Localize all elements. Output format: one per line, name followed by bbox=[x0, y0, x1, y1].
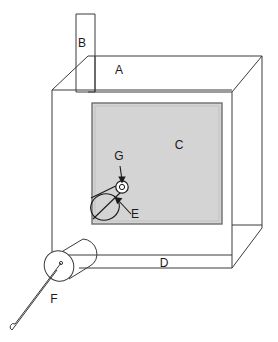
chimney-stack bbox=[76, 14, 95, 92]
label-e: E bbox=[131, 207, 139, 221]
diagram-svg: A B C D E F G bbox=[0, 0, 278, 342]
label-d: D bbox=[160, 256, 169, 270]
label-g: G bbox=[114, 149, 123, 163]
label-f: F bbox=[50, 292, 57, 306]
probe-cylinder bbox=[38, 239, 96, 287]
label-c: C bbox=[175, 138, 184, 152]
label-b: B bbox=[78, 36, 86, 50]
label-a: A bbox=[115, 63, 123, 77]
diagram-canvas: A B C D E F G bbox=[0, 0, 278, 342]
